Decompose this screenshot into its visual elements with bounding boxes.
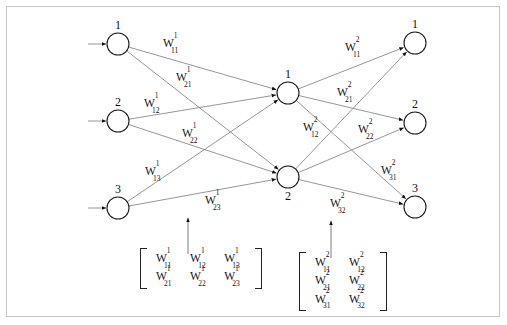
matrix-bracket-left (299, 252, 306, 311)
matrix-bracket-right (255, 248, 262, 289)
weight-label-l1-11: W111 (163, 36, 185, 52)
output-node-3[interactable] (404, 196, 426, 218)
hidden-node-label-1: 1 (278, 68, 298, 80)
matrix-cell-32: W232 (343, 291, 377, 309)
input-node-1[interactable] (107, 33, 129, 55)
hidden-node-2[interactable] (277, 166, 299, 188)
output-node-1[interactable] (404, 32, 426, 54)
output-node-2[interactable] (404, 112, 426, 134)
output-node-label-1: 1 (405, 18, 425, 30)
input-node-3[interactable] (107, 197, 129, 219)
matrix-grid: W211W212W221W222W231W232 (306, 252, 380, 311)
weight-label-l1-13: W113 (145, 164, 167, 180)
weight-matrix-layer-2: W211W212W221W222W231W232 (299, 252, 387, 311)
matrix-cell-23: W123 (218, 268, 252, 286)
matrix-cell-21: W121 (150, 268, 184, 286)
matrix-bracket-left (140, 248, 147, 289)
edge-input1-hidden1 (129, 47, 277, 90)
hidden-node-1[interactable] (277, 82, 299, 104)
weight-label-l2-31: W231 (381, 163, 403, 179)
weight-label-l2-21: W221 (337, 85, 359, 101)
matrix-bracket-right (380, 252, 387, 311)
weight-label-l2-12: W212 (303, 120, 325, 136)
input-node-2[interactable] (107, 110, 129, 132)
weight-label-l1-23: W123 (205, 193, 227, 209)
input-node-label-2: 2 (108, 96, 128, 108)
weight-label-l2-11: W211 (345, 40, 367, 56)
weight-label-l2-22: W222 (358, 122, 380, 138)
edge-hidden1-output3 (296, 100, 406, 199)
matrix-cell-31: W231 (309, 291, 343, 309)
edge-input3-hidden2 (129, 179, 276, 206)
input-node-label-3: 3 (108, 183, 128, 195)
weight-label-l2-32: W232 (330, 196, 352, 212)
output-node-label-3: 3 (405, 182, 425, 194)
weight-label-l1-22: W122 (182, 126, 204, 142)
weight-label-l1-12: W112 (144, 96, 166, 112)
weight-label-l1-21: W121 (176, 70, 198, 86)
output-node-label-2: 2 (405, 98, 425, 110)
matrix-grid: W111W112W113W121W122W123 (147, 248, 255, 289)
matrix-cell-22: W122 (184, 268, 218, 286)
input-node-label-1: 1 (108, 19, 128, 31)
weight-matrix-layer-1: W111W112W113W121W122W123 (140, 248, 262, 289)
hidden-node-label-2: 2 (278, 190, 298, 202)
edge-hidden2-output1 (296, 52, 407, 169)
diagram-canvas: W111W121W112W122W113W123W211W221W212W222… (0, 0, 507, 325)
